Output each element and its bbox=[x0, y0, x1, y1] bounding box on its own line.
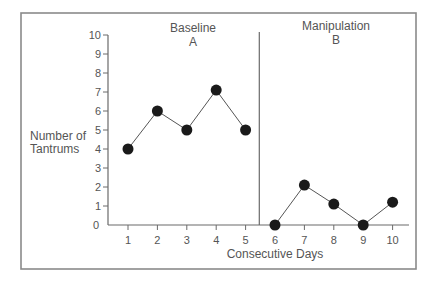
y-tick-label: 6 bbox=[95, 105, 101, 117]
data-point bbox=[299, 180, 310, 191]
phase-b-label: B bbox=[332, 33, 340, 47]
data-series bbox=[123, 85, 399, 231]
y-tick-label: 2 bbox=[95, 181, 101, 193]
y-tick-label: 4 bbox=[95, 143, 101, 155]
x-tick-label: 4 bbox=[213, 234, 219, 246]
data-point bbox=[358, 220, 369, 231]
x-tick-label: 6 bbox=[272, 234, 278, 246]
x-tick-label: 10 bbox=[386, 234, 398, 246]
data-point bbox=[181, 125, 192, 136]
data-point bbox=[123, 144, 134, 155]
y-tick-label: 7 bbox=[95, 86, 101, 98]
y-tick-label: 0 bbox=[93, 219, 99, 231]
y-axis-label-line-2: Tantrums bbox=[30, 142, 79, 156]
data-point bbox=[328, 199, 339, 210]
x-axis-label: Consecutive Days bbox=[227, 247, 324, 261]
y-tick-label: 5 bbox=[95, 124, 101, 136]
x-tick-label: 9 bbox=[360, 234, 366, 246]
data-point bbox=[152, 106, 163, 117]
phase-a-title: Baseline bbox=[170, 21, 216, 35]
x-tick-label: 5 bbox=[243, 234, 249, 246]
phase-b-title: Manipulation bbox=[302, 19, 370, 33]
y-tick-label: 8 bbox=[95, 67, 101, 79]
y-tick-label: 9 bbox=[95, 48, 101, 60]
y-tick-label: 3 bbox=[95, 162, 101, 174]
series-line-phase-a bbox=[128, 90, 246, 149]
y-axis: 012345678910 bbox=[89, 29, 108, 231]
ab-design-chart: Baseline A Manipulation B Number of Tant… bbox=[0, 0, 433, 282]
x-tick-label: 2 bbox=[154, 234, 160, 246]
data-point bbox=[240, 125, 251, 136]
x-tick-label: 3 bbox=[184, 234, 190, 246]
data-point bbox=[387, 197, 398, 208]
y-tick-label: 1 bbox=[95, 200, 101, 212]
data-point bbox=[270, 220, 281, 231]
y-axis-label-line-1: Number of bbox=[30, 129, 87, 143]
x-tick-label: 7 bbox=[301, 234, 307, 246]
y-axis-label: Number of Tantrums bbox=[30, 129, 87, 156]
x-tick-label: 1 bbox=[125, 234, 131, 246]
phase-titles: Baseline A Manipulation B bbox=[170, 19, 370, 49]
x-tick-label: 8 bbox=[331, 234, 337, 246]
data-point bbox=[211, 85, 222, 96]
phase-a-label: A bbox=[189, 35, 197, 49]
y-tick-label: 10 bbox=[89, 29, 101, 41]
